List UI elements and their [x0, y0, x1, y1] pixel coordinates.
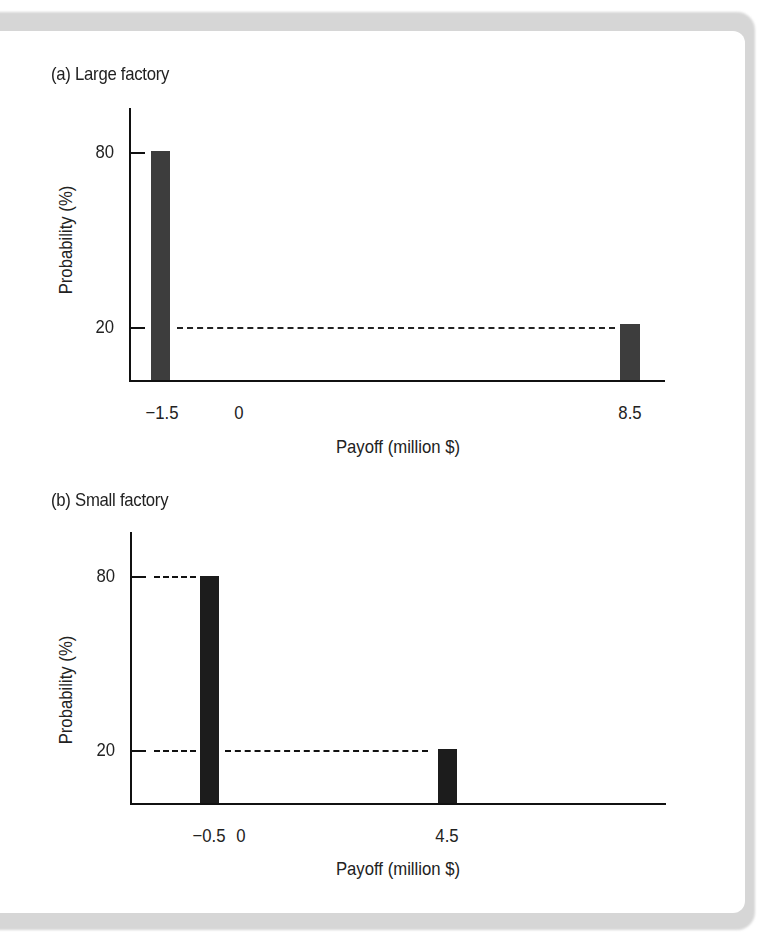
x-axis-label: Payoff (million $) — [336, 858, 460, 880]
bar-payoff-neg-1.5 — [151, 151, 170, 380]
bar-payoff-neg-0.5 — [200, 576, 219, 803]
x-tick-label-neg-0.5: −0.5 — [192, 825, 225, 847]
y-tick-label-20: 20 — [96, 739, 115, 761]
y-tick-80 — [131, 152, 145, 154]
y-tick-20 — [131, 327, 145, 329]
reference-line-20-left — [154, 750, 196, 752]
figure-card — [0, 31, 745, 913]
y-axis-label: Probability (%) — [55, 186, 77, 295]
x-tick-label-0: 0 — [236, 825, 245, 847]
y-tick-80 — [132, 576, 146, 578]
chart-title: (a) Large factory — [51, 63, 169, 85]
y-tick-label-80: 80 — [96, 565, 115, 587]
y-axis — [129, 108, 131, 382]
x-axis — [129, 380, 665, 382]
y-tick-20 — [132, 750, 146, 752]
y-tick-label-20: 20 — [95, 316, 114, 338]
chart-title: (b) Small factory — [51, 489, 168, 511]
y-tick-label-80: 80 — [95, 141, 114, 163]
reference-line-20-right — [225, 750, 428, 752]
x-axis-label: Payoff (million $) — [336, 436, 460, 458]
x-axis — [130, 803, 666, 805]
x-tick-label-8.5: 8.5 — [618, 402, 641, 424]
bar-payoff-4.5 — [438, 749, 457, 803]
x-tick-label-4.5: 4.5 — [435, 825, 458, 847]
x-tick-label-neg-1.5: −1.5 — [145, 402, 178, 424]
y-axis-label: Probability (%) — [55, 636, 77, 745]
reference-line-20 — [177, 327, 615, 329]
bar-payoff-8.5 — [620, 324, 640, 380]
y-axis — [130, 532, 132, 805]
x-tick-label-0: 0 — [234, 402, 243, 424]
reference-line-80 — [154, 576, 196, 578]
